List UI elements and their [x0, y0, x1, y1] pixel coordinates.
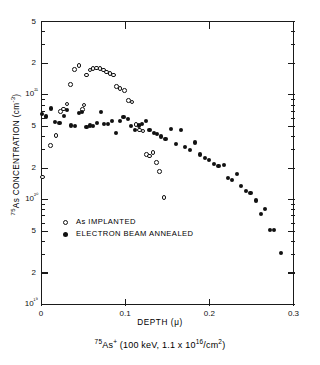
y-tick-minor: [41, 254, 45, 255]
y-tick-major: [41, 63, 48, 64]
y-tick-minor: [41, 31, 45, 32]
y-tick-major: [41, 199, 48, 200]
data-point: [193, 140, 197, 144]
legend-label-electron-beam-annealed: ELECTRON BEAM ANNEALED: [76, 229, 194, 238]
data-point: [279, 251, 283, 255]
legend-item-as-implanted: As IMPLANTED: [63, 216, 194, 228]
data-point: [84, 73, 89, 78]
x-tick-major: [41, 299, 42, 306]
y-tick-minor-right: [291, 241, 295, 242]
data-point: [222, 163, 226, 167]
data-point: [272, 228, 276, 232]
data-point: [72, 67, 77, 72]
data-point: [130, 100, 135, 105]
data-point: [82, 103, 87, 108]
y-tick-label: 2: [16, 268, 36, 277]
data-point: [259, 212, 263, 216]
figure-container: 10¹⁹2510²⁰2510²¹25 00.10.20.3 As IMPLANT…: [0, 0, 320, 365]
data-point: [62, 114, 66, 118]
data-point: [48, 143, 53, 148]
data-point: [122, 88, 127, 93]
y-tick-major-right: [288, 199, 295, 200]
data-point: [147, 128, 151, 132]
x-tick-label: 0.3: [279, 309, 309, 318]
y-tick-label: 10¹⁹: [5, 299, 38, 308]
y-tick-minor-right: [291, 99, 295, 100]
data-point: [118, 119, 122, 123]
data-point: [57, 121, 61, 125]
data-point: [77, 63, 82, 68]
y-tick-minor-right: [291, 44, 295, 45]
y-tick-major-right: [288, 126, 295, 127]
x-tick-major: [209, 299, 210, 306]
y-tick-minor-right: [291, 149, 295, 150]
axis-bottom: [41, 304, 294, 305]
x-tick-major: [125, 299, 126, 306]
data-point: [65, 108, 69, 112]
data-point: [263, 207, 267, 211]
y-tick-major: [41, 231, 48, 232]
y-tick-major-right: [288, 94, 295, 95]
legend: As IMPLANTED ELECTRON BEAM ANNEALED: [63, 216, 194, 240]
data-point: [126, 117, 130, 121]
y-tick-major: [41, 304, 48, 305]
y-tick-minor: [41, 204, 45, 205]
data-point: [80, 110, 84, 114]
data-point: [157, 169, 162, 174]
axis-top: [41, 21, 294, 22]
y-tick-major-right: [288, 231, 295, 232]
data-point: [49, 106, 53, 110]
data-point: [179, 128, 183, 132]
y-tick-minor-right: [291, 223, 295, 224]
y-tick-minor-right: [291, 136, 295, 137]
data-point: [162, 195, 167, 200]
data-point: [141, 129, 146, 134]
figure-caption: 75As+ (100 keV, 1.1 x 1016/cm2): [0, 340, 320, 350]
data-point: [144, 119, 148, 123]
data-point: [65, 102, 70, 107]
y-tick-major: [41, 21, 48, 22]
y-tick-minor: [41, 99, 45, 100]
x-tick-major-top: [293, 22, 294, 29]
y-tick-minor: [41, 241, 45, 242]
x-tick-label: 0.1: [110, 309, 140, 318]
data-point: [183, 145, 187, 149]
y-tick-major-right: [288, 63, 295, 64]
y-tick-minor-right: [291, 204, 295, 205]
data-point: [188, 148, 192, 152]
data-point: [73, 124, 77, 128]
x-tick-major-top: [209, 22, 210, 29]
y-tick-minor-right: [291, 215, 295, 216]
legend-label-as-implanted: As IMPLANTED: [76, 217, 136, 226]
y-tick-major: [41, 126, 48, 127]
data-point: [121, 115, 125, 119]
filled-circle-marker-icon: [63, 232, 68, 237]
y-tick-minor-right: [291, 254, 295, 255]
y-tick-minor-right: [291, 118, 295, 119]
y-tick-major: [41, 168, 48, 169]
y-tick-label: 5: [16, 17, 36, 26]
data-point: [110, 119, 114, 123]
y-tick-major: [41, 272, 48, 273]
data-point: [40, 175, 45, 180]
data-point: [198, 152, 202, 156]
data-point: [163, 137, 167, 141]
x-tick-major-top: [125, 22, 126, 29]
data-point: [239, 184, 243, 188]
data-point: [114, 131, 118, 135]
y-tick-minor-right: [291, 105, 295, 106]
data-point: [54, 133, 59, 138]
data-point: [207, 158, 211, 162]
x-tick-major: [293, 299, 294, 306]
y-tick-label: 10²⁰: [5, 194, 38, 203]
y-axis-label: 75As CONCENTRATION (cm-3): [12, 65, 21, 245]
data-point: [95, 121, 99, 125]
data-point: [154, 160, 159, 165]
data-point: [151, 150, 156, 155]
y-tick-minor: [41, 209, 45, 210]
x-tick-label: 0: [26, 309, 56, 318]
data-point: [248, 191, 252, 195]
y-tick-minor: [41, 223, 45, 224]
x-tick-label: 0.2: [194, 309, 224, 318]
y-tick-major-right: [288, 168, 295, 169]
